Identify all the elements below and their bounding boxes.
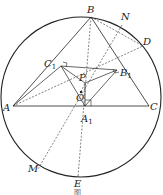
geometry-figure: B N D C A M E P O C1 B1 A1 图 (0, 0, 163, 195)
solid-lines (13, 66, 117, 106)
label-b1: B1 (119, 67, 132, 80)
label-m: M (27, 163, 39, 174)
label-d: D (142, 36, 151, 47)
label-n: N (120, 11, 131, 22)
label-b: B (86, 4, 94, 15)
label-c: C (150, 101, 158, 112)
label-a: A (2, 102, 10, 113)
label-p: P (78, 72, 86, 83)
label-o: O (76, 92, 84, 103)
label-a1: A1 (80, 113, 93, 126)
figure-caption: 图 (74, 189, 81, 195)
label-e: E (73, 178, 82, 189)
diagram-canvas: B N D C A M E P O C1 B1 A1 图 (0, 0, 163, 195)
